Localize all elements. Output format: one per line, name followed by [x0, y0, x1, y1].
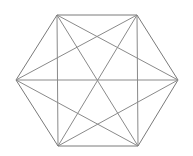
complete-graph-hexagon	[0, 0, 193, 156]
edge-top-right-right	[137, 15, 178, 80]
edge-top-right-left	[16, 15, 137, 80]
edge-right-bottom-right	[138, 80, 178, 146]
edge-bottom-left-left	[16, 80, 58, 146]
edge-top-left-left	[16, 15, 57, 80]
